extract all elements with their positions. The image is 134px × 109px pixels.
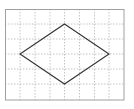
grid-lines xyxy=(5,9,124,100)
grid-diagram xyxy=(0,0,134,109)
rhombus-on-grid-figure xyxy=(0,0,134,109)
